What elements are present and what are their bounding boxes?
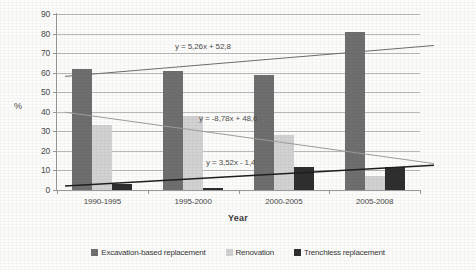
y-tick-label: 10: [26, 165, 50, 175]
legend-label: Trenchless replacement: [304, 248, 385, 257]
x-tick-label: 2000-2005: [244, 197, 324, 206]
y-tick-label: 60: [26, 68, 50, 78]
legend-swatch-icon: [226, 249, 233, 256]
x-tick-label: 1995-2000: [153, 197, 233, 206]
legend-item-0: Excavation-based replacement: [91, 248, 205, 257]
x-tick-mark: [239, 190, 240, 194]
trendline-equation-2: y = 3,52x - 1,4: [206, 158, 255, 167]
bar-2-1: [203, 188, 223, 190]
legend-swatch-icon: [91, 249, 98, 256]
y-tick-label: 80: [26, 29, 50, 39]
bar-0-0: [72, 69, 92, 190]
y-axis-title: %: [14, 101, 22, 111]
x-tick-mark: [57, 190, 58, 194]
trendline-equation-1: y = -8,78x + 48,6: [199, 114, 257, 123]
bar-1-3: [365, 176, 385, 190]
x-tick-mark: [148, 190, 149, 194]
bar-0-1: [163, 71, 183, 190]
legend-item-2: Trenchless replacement: [294, 248, 385, 257]
legend-label: Renovation: [236, 248, 274, 257]
x-axis-title: Year: [0, 213, 476, 223]
chart-legend: Excavation-based replacementRenovationTr…: [0, 248, 476, 257]
y-tick-label: 50: [26, 87, 50, 97]
bar-2-3: [385, 167, 405, 190]
x-tick-mark: [329, 190, 330, 194]
y-tick-label: 30: [26, 126, 50, 136]
chart-canvas: % 0102030405060708090 y = 5,26x + 52,8y …: [0, 0, 476, 270]
x-tick-mark: [420, 190, 421, 194]
x-tick-label: 2005-2008: [335, 197, 415, 206]
bar-0-3: [345, 32, 365, 190]
bar-0-2: [254, 75, 274, 190]
bar-2-0: [112, 184, 132, 190]
y-tick-label: 90: [26, 9, 50, 19]
y-tick-label: 20: [26, 146, 50, 156]
legend-item-1: Renovation: [226, 248, 274, 257]
legend-label: Excavation-based replacement: [101, 248, 205, 257]
y-tick-label: 0: [26, 185, 50, 195]
bar-1-1: [183, 116, 203, 190]
y-tick-label: 40: [26, 107, 50, 117]
x-tick-label: 1990-1995: [62, 197, 142, 206]
legend-swatch-icon: [294, 249, 301, 256]
trendline-equation-0: y = 5,26x + 52,8: [175, 42, 231, 51]
y-tick-label: 70: [26, 48, 50, 58]
bar-1-2: [274, 135, 294, 190]
bar-2-2: [294, 167, 314, 190]
bar-1-0: [92, 125, 112, 190]
